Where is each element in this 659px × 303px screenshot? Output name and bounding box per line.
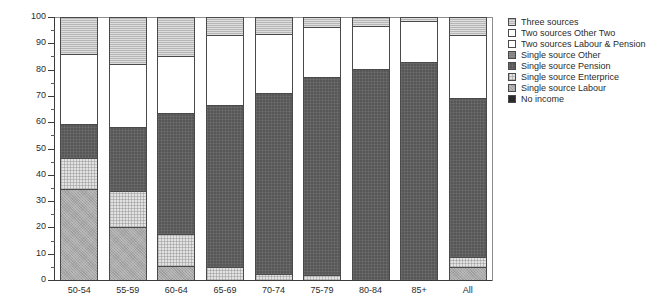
legend-item-label: Three sources xyxy=(521,18,579,27)
bar-segment-two-sources-labour-pension[interactable] xyxy=(207,36,243,105)
bar-segment-single-source-pension[interactable] xyxy=(110,128,146,192)
bar-segment-two-sources-labour-pension[interactable] xyxy=(353,27,389,70)
legend-swatch-icon xyxy=(508,18,516,26)
x-tick-label: All xyxy=(438,285,498,295)
legend-swatch-icon xyxy=(508,51,516,59)
bar-segment-two-sources-labour-pension[interactable] xyxy=(304,28,340,78)
legend-item-label: Single source Labour xyxy=(521,84,606,93)
bar-segment-single-source-pension[interactable] xyxy=(256,94,292,275)
legend-swatch-icon xyxy=(508,62,516,70)
bar-segment-single-source-enterprice[interactable] xyxy=(304,276,340,280)
y-tick-label-wrap: 90 xyxy=(0,38,46,47)
legend-item-label: Two sources Other Two xyxy=(521,29,615,38)
y-tick-major xyxy=(48,280,55,281)
legend-item-6[interactable]: Single source Labour xyxy=(508,83,646,93)
legend-item-0[interactable]: Three sources xyxy=(508,17,646,27)
y-tick-label-wrap: 40 xyxy=(0,170,46,179)
bar-segment-single-source-labour[interactable] xyxy=(61,190,97,280)
bar-segment-single-source-enterprice[interactable] xyxy=(110,192,146,227)
legend-item-5[interactable]: Single source Enterprice xyxy=(508,72,646,82)
y-tick-label-wrap: 10 xyxy=(0,249,46,258)
bar-segment-three-sources[interactable] xyxy=(353,18,389,27)
bar-all[interactable] xyxy=(449,17,487,280)
plot-right-border xyxy=(492,17,493,281)
legend-item-label: Two sources Labour & Pension xyxy=(521,40,646,49)
bar-segment-single-source-enterprice[interactable] xyxy=(207,268,243,280)
bar-75-79[interactable] xyxy=(303,17,341,280)
bar-segment-two-sources-labour-pension[interactable] xyxy=(61,55,97,126)
bar-segment-single-source-pension[interactable] xyxy=(304,78,340,276)
bar-segment-single-source-enterprice[interactable] xyxy=(158,235,194,266)
legend-item-7[interactable]: No income xyxy=(508,94,646,104)
bar-segment-two-sources-labour-pension[interactable] xyxy=(450,36,486,99)
legend-item-2[interactable]: Two sources Labour & Pension xyxy=(508,39,646,49)
y-tick-label: 30 xyxy=(20,196,46,205)
y-tick-label: 10 xyxy=(20,249,46,258)
bar-80-84[interactable] xyxy=(352,17,390,280)
bar-85plus[interactable] xyxy=(400,17,438,280)
bar-segment-two-sources-labour-pension[interactable] xyxy=(256,35,292,94)
bar-segment-single-source-labour[interactable] xyxy=(450,268,486,280)
y-tick-label: 50 xyxy=(20,144,46,153)
bar-segment-three-sources[interactable] xyxy=(450,18,486,36)
bar-segment-single-source-pension[interactable] xyxy=(207,106,243,268)
bar-segment-single-source-pension[interactable] xyxy=(61,125,97,159)
bar-segment-two-sources-labour-pension[interactable] xyxy=(158,57,194,113)
bar-65-69[interactable] xyxy=(206,17,244,280)
y-tick-major xyxy=(48,70,55,71)
legend-swatch-icon xyxy=(508,95,516,103)
y-tick-label-wrap: 100 xyxy=(0,12,46,21)
y-tick-major xyxy=(48,201,55,202)
legend-item-label: Single source Enterprice xyxy=(521,73,619,82)
legend-swatch-icon xyxy=(508,84,516,92)
y-tick-label-wrap: 20 xyxy=(0,222,46,231)
y-tick-major xyxy=(48,17,55,18)
bar-segment-three-sources[interactable] xyxy=(207,18,243,36)
y-tick-label: 90 xyxy=(20,38,46,47)
bar-segment-single-source-labour[interactable] xyxy=(110,228,146,280)
bar-segment-single-source-pension[interactable] xyxy=(401,63,437,280)
y-tick-label-wrap: 50 xyxy=(0,144,46,153)
x-axis-line xyxy=(54,280,493,281)
bar-segment-single-source-enterprice[interactable] xyxy=(61,159,97,189)
bar-segment-single-source-pension[interactable] xyxy=(158,114,194,236)
bar-segment-two-sources-labour-pension[interactable] xyxy=(401,22,437,63)
bar-70-74[interactable] xyxy=(255,17,293,280)
bar-50-54[interactable] xyxy=(60,17,98,280)
y-tick-label: 20 xyxy=(20,222,46,231)
bar-segment-two-sources-labour-pension[interactable] xyxy=(110,65,146,128)
bar-60-64[interactable] xyxy=(157,17,195,280)
legend-swatch-icon xyxy=(508,73,516,81)
bar-segment-three-sources[interactable] xyxy=(401,18,437,22)
bar-segment-single-source-enterprice[interactable] xyxy=(256,275,292,280)
y-tick-label-wrap: 80 xyxy=(0,65,46,74)
y-tick-label-wrap: 70 xyxy=(0,91,46,100)
bar-segment-single-source-pension[interactable] xyxy=(353,70,389,280)
y-tick-label-wrap: 30 xyxy=(0,196,46,205)
bar-segment-three-sources[interactable] xyxy=(256,18,292,35)
legend: Three sourcesTwo sources Other TwoTwo so… xyxy=(508,17,646,104)
legend-item-label: No income xyxy=(521,95,564,104)
bar-segment-three-sources[interactable] xyxy=(61,18,97,55)
y-tick-label: 100 xyxy=(20,12,46,21)
bar-segment-single-source-enterprice[interactable] xyxy=(450,258,486,268)
y-tick-major xyxy=(48,149,55,150)
bar-segment-single-source-pension[interactable] xyxy=(450,99,486,258)
bar-segment-three-sources[interactable] xyxy=(304,18,340,28)
y-tick-label: 0 xyxy=(20,275,46,284)
legend-item-4[interactable]: Single source Pension xyxy=(508,61,646,71)
y-tick-label: 70 xyxy=(20,91,46,100)
y-tick-major xyxy=(48,122,55,123)
legend-item-label: Single source Pension xyxy=(521,62,611,71)
bar-segment-three-sources[interactable] xyxy=(110,18,146,65)
bar-segment-single-source-labour[interactable] xyxy=(158,267,194,280)
bar-segment-three-sources[interactable] xyxy=(158,18,194,57)
bar-55-59[interactable] xyxy=(109,17,147,280)
legend-item-1[interactable]: Two sources Other Two xyxy=(508,28,646,38)
y-tick-major xyxy=(48,254,55,255)
legend-item-3[interactable]: Single source Other xyxy=(508,50,646,60)
y-tick-major xyxy=(48,175,55,176)
y-tick-major xyxy=(48,227,55,228)
legend-swatch-icon xyxy=(508,29,516,37)
plot-area xyxy=(55,17,492,280)
